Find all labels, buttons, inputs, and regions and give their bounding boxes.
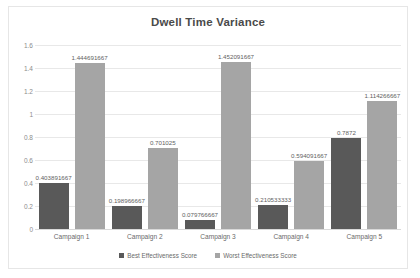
y-axis-tick-label: 0 (11, 226, 33, 233)
chart-title: Dwell Time Variance (9, 16, 407, 28)
plot-area: 0.4038916671.4446916670.1989666670.70102… (35, 45, 401, 229)
bar-worst-2[interactable] (148, 148, 178, 229)
bar-value-label: 0.7872 (337, 129, 356, 136)
bar-best-5[interactable] (331, 138, 361, 229)
x-axis-category-label: Campaign 4 (273, 233, 309, 240)
legend-item-best[interactable]: Best Effectiveness Score (119, 252, 197, 259)
bar-value-label: 1.114266667 (365, 92, 401, 99)
y-axis-tick-label: 0.8 (11, 134, 33, 141)
bar-worst-3[interactable] (221, 62, 251, 229)
legend-swatch-icon (119, 253, 124, 258)
legend-item-worst[interactable]: Worst Effectiveness Score (215, 252, 297, 259)
bar-value-label: 0.701025 (150, 139, 176, 146)
bar-worst-4[interactable] (294, 161, 324, 229)
bar-value-label: 0.403891667 (36, 174, 72, 181)
chart-legend: Best Effectiveness ScoreWorst Effectiven… (9, 252, 407, 259)
y-axis-tick-label: 0.2 (11, 203, 33, 210)
bar-value-label: 1.452091667 (218, 53, 254, 60)
chart-container: Dwell Time Variance 00.20.40.60.811.21.4… (8, 6, 408, 269)
bar-best-4[interactable] (258, 205, 288, 229)
legend-swatch-icon (215, 253, 220, 258)
y-axis: 00.20.40.60.811.21.41.6 (9, 45, 33, 229)
x-axis-category-label: Campaign 5 (347, 233, 383, 240)
y-axis-tick-label: 1.6 (11, 42, 33, 49)
bar-value-label: 0.198966667 (109, 197, 145, 204)
bar-best-3[interactable] (185, 220, 215, 229)
y-axis-tick-label: 0.4 (11, 180, 33, 187)
x-axis-category-label: Campaign 3 (200, 233, 236, 240)
x-axis-line (35, 229, 401, 230)
legend-label: Best Effectiveness Score (127, 252, 197, 259)
bar-value-label: 0.210533333 (255, 196, 291, 203)
bar-worst-1[interactable] (75, 63, 105, 229)
bar-value-label: 0.079766667 (182, 211, 218, 218)
bar-value-label: 1.444691667 (72, 54, 108, 61)
bar-best-2[interactable] (112, 206, 142, 229)
x-axis-category-label: Campaign 2 (127, 233, 163, 240)
legend-label: Worst Effectiveness Score (223, 252, 297, 259)
y-axis-tick-label: 1.2 (11, 88, 33, 95)
bar-worst-5[interactable] (367, 101, 397, 229)
y-axis-tick-label: 1 (11, 111, 33, 118)
bar-best-1[interactable] (39, 183, 69, 229)
x-axis-category-label: Campaign 1 (54, 233, 90, 240)
bar-value-label: 0.594091667 (291, 152, 327, 159)
y-axis-tick-label: 0.6 (11, 157, 33, 164)
y-axis-tick-label: 1.4 (11, 65, 33, 72)
gridline (35, 45, 401, 46)
